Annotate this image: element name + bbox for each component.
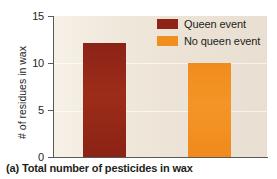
- chart-legend: Queen event No queen event: [157, 17, 260, 51]
- legend-item-no-queen-event[interactable]: No queen event: [157, 34, 260, 47]
- bar-no-queen-event[interactable]: [188, 63, 231, 158]
- y-tick-mark-15: [48, 16, 54, 17]
- bar-chart-figure: 15 10 5 0 # of residues in wax Queen eve…: [0, 0, 277, 179]
- y-tick-label-15: 15: [4, 11, 44, 22]
- legend-item-queen-event[interactable]: Queen event: [157, 17, 260, 30]
- legend-swatch-icon-queen: [157, 19, 178, 29]
- legend-label-no-queen: No queen event: [184, 35, 260, 47]
- legend-swatch-icon-no-queen: [157, 36, 178, 46]
- y-tick-mark-0: [48, 157, 54, 158]
- legend-label-queen: Queen event: [184, 18, 246, 30]
- y-tick-mark-10: [48, 63, 54, 64]
- y-tick-mark-5: [48, 110, 54, 111]
- y-axis-title: # of residues in wax: [17, 23, 28, 163]
- bar-queen-event[interactable]: [83, 43, 126, 158]
- figure-caption: (a) Total number of pesticides in wax: [6, 161, 193, 176]
- y-axis-line: [53, 16, 54, 158]
- x-axis-line: [53, 157, 268, 158]
